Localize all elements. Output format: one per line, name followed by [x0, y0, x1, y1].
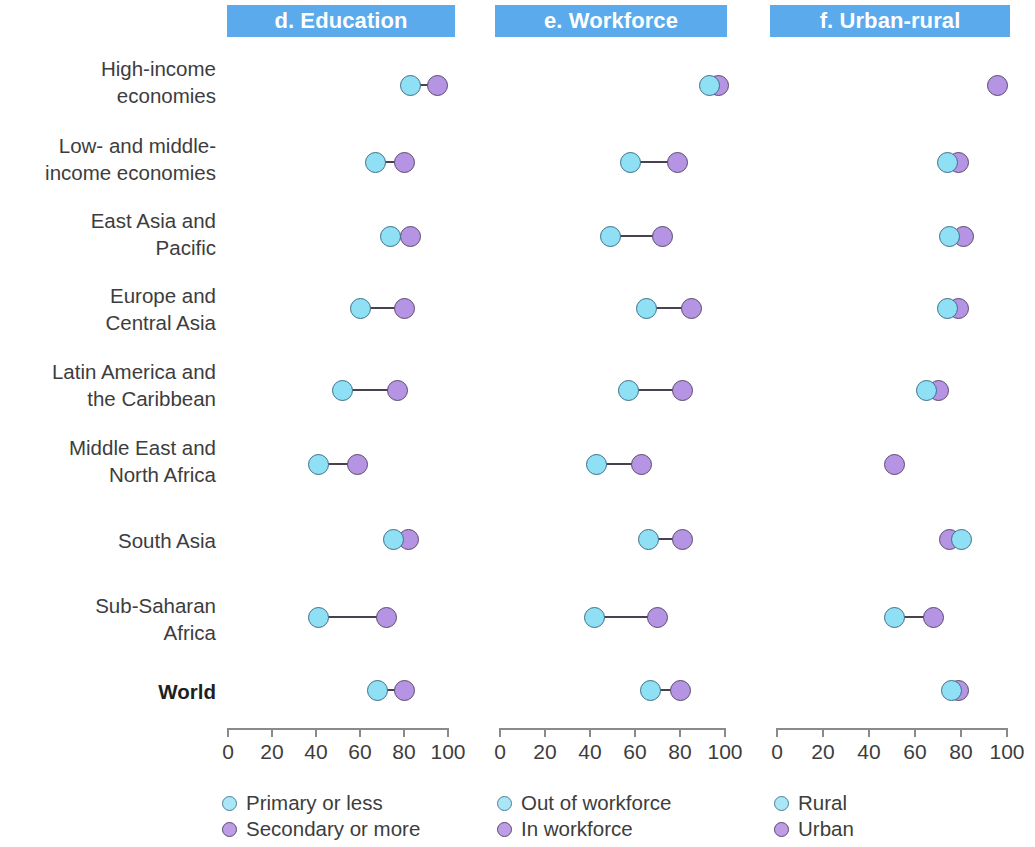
axis-tick [499, 728, 501, 737]
axis-line [228, 728, 448, 730]
dot-blue [383, 529, 404, 550]
dot-purple [670, 680, 691, 701]
axis-tick [1006, 728, 1008, 737]
dot-purple [394, 680, 415, 701]
dot-purple [667, 152, 688, 173]
legend-label: Secondary or more [246, 817, 420, 841]
dot-purple [427, 75, 448, 96]
axis-tick-label: 60 [623, 740, 646, 764]
axis-tick-label: 80 [949, 740, 972, 764]
legend-label: Primary or less [246, 791, 383, 815]
row-label-1: Low- and middle- income economies [0, 132, 216, 186]
dot-blue [350, 298, 371, 319]
legend-label: Out of workforce [521, 791, 671, 815]
dot-blue [365, 152, 386, 173]
axis-tick-label: 100 [430, 740, 465, 764]
axis-e: 020406080100 [500, 728, 725, 729]
blue-dot-icon [774, 796, 789, 811]
axis-tick-label: 20 [260, 740, 283, 764]
axis-tick [724, 728, 726, 737]
dot-blue [600, 226, 621, 247]
dot-purple [376, 607, 397, 628]
dot-purple [347, 454, 368, 475]
legend-item: In workforce [497, 816, 671, 842]
axis-tick [634, 728, 636, 737]
dot-purple [884, 454, 905, 475]
dot-blue [937, 298, 958, 319]
dot-blue [332, 380, 353, 401]
chart-page: d. Educatione. Workforcef. Urban-ruralHi… [0, 0, 1035, 847]
dot-purple [631, 454, 652, 475]
legend-d: Primary or lessSecondary or more [222, 790, 420, 842]
axis-tick [271, 728, 273, 737]
row-label-8: World [0, 678, 216, 705]
dot-blue [308, 607, 329, 628]
axis-tick [589, 728, 591, 737]
dot-purple [394, 152, 415, 173]
axis-tick-label: 0 [771, 740, 783, 764]
blue-dot-icon [222, 796, 237, 811]
axis-tick [679, 728, 681, 737]
dot-purple [987, 75, 1008, 96]
dot-blue [939, 226, 960, 247]
dot-purple [400, 226, 421, 247]
axis-d: 020406080100 [228, 728, 448, 729]
axis-tick-label: 100 [707, 740, 742, 764]
axis-tick-label: 0 [222, 740, 234, 764]
axis-tick-label: 40 [857, 740, 880, 764]
dot-purple [647, 607, 668, 628]
axis-tick [359, 728, 361, 737]
dot-blue [937, 152, 958, 173]
legend-item: Primary or less [222, 790, 420, 816]
axis-tick [868, 728, 870, 737]
axis-tick [914, 728, 916, 737]
legend-item: Urban [774, 816, 854, 842]
legend-item: Rural [774, 790, 854, 816]
dot-blue [699, 75, 720, 96]
axis-line [777, 728, 1007, 730]
panel-header-d: d. Education [227, 5, 455, 37]
dot-blue [380, 226, 401, 247]
dot-purple [672, 529, 693, 550]
dot-purple [681, 298, 702, 319]
axis-tick-label: 0 [494, 740, 506, 764]
dot-blue [586, 454, 607, 475]
dot-blue [620, 152, 641, 173]
dot-purple [387, 380, 408, 401]
row-label-2: East Asia and Pacific [0, 207, 216, 261]
axis-f: 020406080100 [777, 728, 1007, 729]
row-label-0: High-income economies [0, 55, 216, 109]
dot-blue [638, 529, 659, 550]
dot-blue [400, 75, 421, 96]
axis-tick [776, 728, 778, 737]
dot-purple [923, 607, 944, 628]
legend-label: Rural [798, 791, 847, 815]
legend-label: In workforce [521, 817, 633, 841]
row-label-6: South Asia [0, 527, 216, 554]
blue-dot-icon [497, 796, 512, 811]
dot-blue [618, 380, 639, 401]
axis-tick-label: 40 [578, 740, 601, 764]
axis-tick [403, 728, 405, 737]
row-label-5: Middle East and North Africa [0, 434, 216, 488]
dot-blue [367, 680, 388, 701]
dot-blue [636, 298, 657, 319]
axis-tick [447, 728, 449, 737]
dot-purple [652, 226, 673, 247]
axis-tick-label: 100 [989, 740, 1024, 764]
axis-line [500, 728, 725, 730]
legend-label: Urban [798, 817, 854, 841]
row-label-7: Sub-Saharan Africa [0, 592, 216, 646]
dot-blue [884, 607, 905, 628]
row-label-3: Europe and Central Asia [0, 282, 216, 336]
dot-blue [951, 529, 972, 550]
dot-purple [672, 380, 693, 401]
dot-blue [308, 454, 329, 475]
axis-tick [544, 728, 546, 737]
panel-header-e: e. Workforce [495, 5, 727, 37]
purple-dot-icon [774, 822, 789, 837]
dot-blue [941, 680, 962, 701]
axis-tick-label: 20 [533, 740, 556, 764]
axis-tick-label: 60 [903, 740, 926, 764]
legend-f: RuralUrban [774, 790, 854, 842]
